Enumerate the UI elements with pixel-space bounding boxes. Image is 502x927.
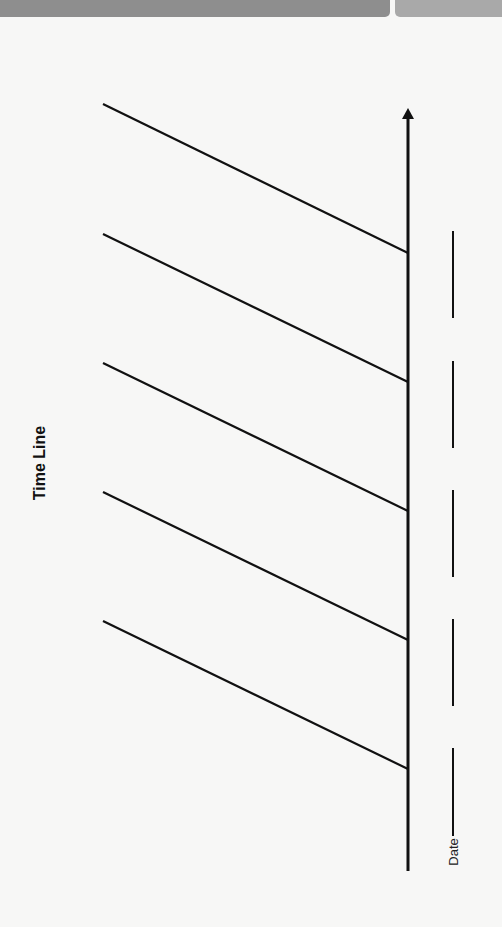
arrow-up-icon <box>402 108 414 119</box>
date-label: Date <box>446 838 461 865</box>
diagram-title: Time Line <box>31 426 49 500</box>
timeline-branches <box>103 104 408 769</box>
timeline-diagram <box>0 0 502 927</box>
timeline-branch-line <box>103 621 408 769</box>
timeline-branch-line <box>103 492 408 640</box>
timeline-branch-line <box>103 104 408 253</box>
timeline-branch-line <box>103 234 408 382</box>
timeline-branch-line <box>103 363 408 511</box>
